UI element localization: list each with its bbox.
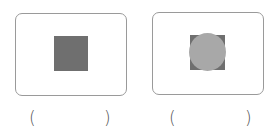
right-circle-shape [189, 33, 226, 71]
right-answer-close-paren: ) [245, 108, 252, 128]
left-square-shape [54, 36, 88, 71]
left-answer-open-paren: ( [29, 108, 36, 128]
left-answer-close-paren: ) [104, 108, 111, 128]
right-answer-open-paren: ( [169, 108, 176, 128]
